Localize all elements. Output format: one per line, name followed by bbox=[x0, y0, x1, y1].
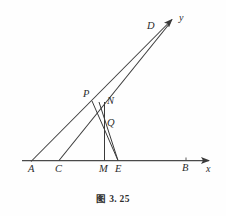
point-label-a: A bbox=[28, 164, 34, 175]
figure-caption: 图 3. 25 bbox=[0, 191, 226, 205]
point-label-q: Q bbox=[107, 118, 115, 129]
point-label-n: N bbox=[107, 96, 114, 107]
axis-label-x: x bbox=[206, 164, 210, 174]
point-label-d: D bbox=[147, 21, 155, 32]
geometry-figure: A C M E B P N Q D x y 图 3. 25 bbox=[0, 0, 226, 216]
geometry-canvas bbox=[0, 0, 226, 216]
point-label-c: C bbox=[55, 164, 62, 175]
segment-e-to-n bbox=[99, 102, 118, 161]
point-label-m: M bbox=[99, 164, 108, 175]
point-label-e: E bbox=[115, 164, 121, 175]
ray-a-to-y-axis bbox=[31, 20, 172, 162]
axis-label-y: y bbox=[179, 13, 183, 23]
point-label-p: P bbox=[83, 89, 89, 100]
ray-c-to-d bbox=[59, 23, 170, 161]
point-label-b: B bbox=[182, 163, 188, 174]
